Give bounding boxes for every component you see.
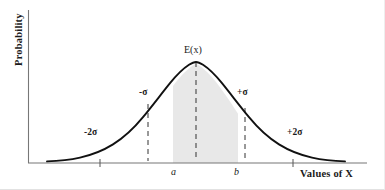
normal-distribution-figure: Probability Values of X E(x) -σ +σ -2σ +… (0, 0, 385, 190)
x-axis-title: Values of X (300, 169, 353, 180)
pos-two-sigma-label: +2σ (287, 128, 302, 138)
distribution-plot (0, 0, 385, 190)
shaded-area-a-to-b (173, 64, 238, 163)
mean-label: E(x) (184, 45, 202, 55)
pos-sigma-label: +σ (237, 88, 248, 98)
neg-two-sigma-label: -2σ (84, 128, 97, 138)
upper-bound-label: b (234, 167, 239, 177)
neg-sigma-label: -σ (139, 88, 147, 98)
y-axis-title: Probability (14, 54, 25, 66)
lower-bound-label: a (171, 167, 176, 177)
